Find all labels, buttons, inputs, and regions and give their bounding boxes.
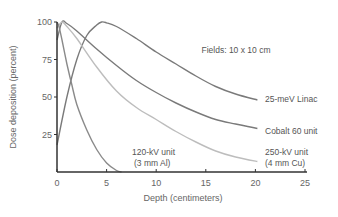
label-cobalt: Cobalt 60 unit: [265, 126, 318, 136]
y-tick-label: 50: [42, 92, 52, 102]
series-line-1: [57, 21, 257, 129]
label-120kv-line1: 120-kV unit: [132, 147, 176, 157]
label-250kv-line1: 250-kV unit: [265, 147, 309, 157]
y-tick-label: 75: [42, 55, 52, 65]
x-tick-label: 25: [300, 178, 310, 188]
x-tick-label: 20: [250, 178, 260, 188]
fields-annotation: Fields: 10 x 10 cm: [202, 45, 271, 55]
y-axis-title: Dose deposition (percent): [8, 45, 18, 148]
x-tick-label: 10: [151, 178, 161, 188]
y-tick-label: 100: [37, 17, 52, 27]
x-tick-label: 15: [201, 178, 211, 188]
label-linac: 25-meV Linac: [265, 94, 318, 104]
x-tick-label: 5: [104, 178, 109, 188]
x-axis-title: Depth (centimeters): [143, 193, 222, 203]
label-120kv-line2: (3 mm Al): [134, 158, 171, 168]
label-250kv-line2: (4 mm Cu): [265, 158, 305, 168]
dose-depth-chart: 255075100 0510152025 Depth (centimeters)…: [0, 0, 338, 217]
x-tick-label: 0: [54, 178, 59, 188]
y-tick-label: 25: [42, 130, 52, 140]
y-ticks: 255075100: [37, 17, 57, 140]
